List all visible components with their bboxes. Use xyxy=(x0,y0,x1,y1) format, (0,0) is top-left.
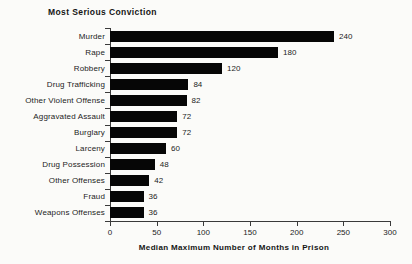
y-axis-tick xyxy=(105,28,110,29)
bar-chart: Most Serious Conviction Murder240Rape180… xyxy=(0,0,412,264)
category-label: Fraud xyxy=(0,191,105,202)
x-axis-tick-label: 200 xyxy=(290,228,303,237)
category-label: Murder xyxy=(0,31,105,42)
y-axis-tick xyxy=(105,76,110,77)
value-label: 82 xyxy=(192,95,201,106)
y-axis-tick xyxy=(105,189,110,190)
value-label: 84 xyxy=(193,79,202,90)
value-label: 60 xyxy=(171,143,180,154)
x-axis-tick xyxy=(390,222,391,226)
bar xyxy=(110,79,188,90)
value-label: 42 xyxy=(154,175,163,186)
value-label: 72 xyxy=(182,111,191,122)
bar xyxy=(110,175,149,186)
category-label: Weapons Offenses xyxy=(0,207,105,218)
x-axis-tick xyxy=(157,222,158,226)
x-axis-tick-label: 50 xyxy=(152,228,161,237)
x-axis-tick xyxy=(203,222,204,226)
bar xyxy=(110,63,222,74)
category-label: Burglary xyxy=(0,127,105,138)
category-label: Other Offenses xyxy=(0,175,105,186)
y-axis-tick xyxy=(105,173,110,174)
y-axis-tick xyxy=(105,92,110,93)
x-axis-tick-label: 150 xyxy=(243,228,256,237)
x-axis-tick xyxy=(297,222,298,226)
bar xyxy=(110,191,144,202)
y-axis-tick xyxy=(105,108,110,109)
category-label: Robbery xyxy=(0,63,105,74)
category-label: Rape xyxy=(0,47,105,58)
bar xyxy=(110,127,177,138)
y-axis-tick xyxy=(105,44,110,45)
x-axis-tick-label: 250 xyxy=(337,228,350,237)
x-axis-tick-label: 0 xyxy=(108,228,112,237)
category-label: Other Violent Offense xyxy=(0,95,105,106)
y-axis-tick xyxy=(105,205,110,206)
category-label: Drug Trafficking xyxy=(0,79,105,90)
x-axis-tick-label: 300 xyxy=(383,228,396,237)
x-axis-tick xyxy=(250,222,251,226)
value-label: 120 xyxy=(227,63,240,74)
bar xyxy=(110,111,177,122)
bar xyxy=(110,95,187,106)
bar xyxy=(110,47,278,58)
value-label: 72 xyxy=(182,127,191,138)
category-label: Larceny xyxy=(0,143,105,154)
bar xyxy=(110,207,144,218)
x-axis-tick xyxy=(343,222,344,226)
bar xyxy=(110,159,155,170)
chart-title: Most Serious Conviction xyxy=(48,7,157,17)
value-label: 240 xyxy=(339,31,352,42)
category-label: Drug Possession xyxy=(0,159,105,170)
value-label: 36 xyxy=(149,191,158,202)
y-axis-tick xyxy=(105,125,110,126)
bar xyxy=(110,31,334,42)
x-axis-tick-label: 100 xyxy=(197,228,210,237)
category-label: Aggravated Assault xyxy=(0,111,105,122)
y-axis-tick xyxy=(105,141,110,142)
value-label: 48 xyxy=(160,159,169,170)
x-axis-tick xyxy=(110,222,111,226)
x-axis-title: Median Maximum Number of Months in Priso… xyxy=(139,243,329,252)
y-axis-tick xyxy=(105,157,110,158)
value-label: 180 xyxy=(283,47,296,58)
bar xyxy=(110,143,166,154)
y-axis-tick xyxy=(105,60,110,61)
value-label: 36 xyxy=(149,207,158,218)
